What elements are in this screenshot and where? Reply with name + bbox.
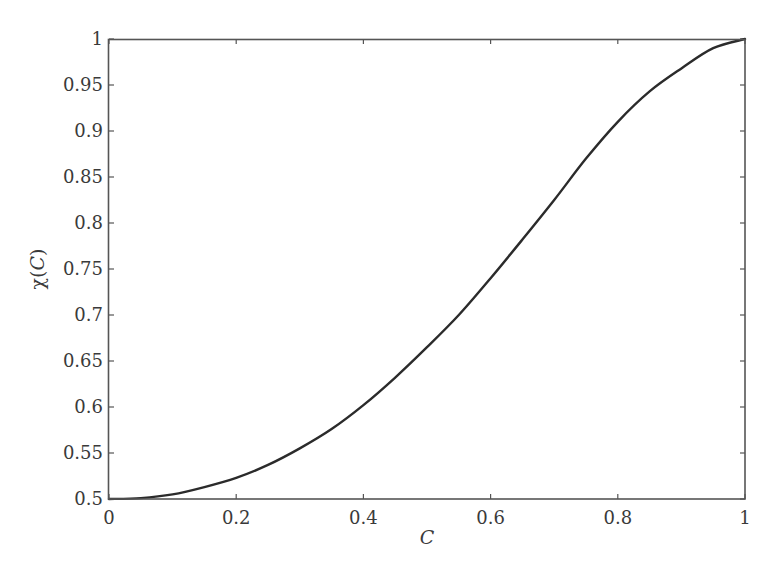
x-axis-ticks: 00.20.40.60.81 bbox=[103, 39, 750, 528]
chart: 0.50.550.60.650.70.750.80.850.90.951 00.… bbox=[0, 0, 779, 569]
y-axis-label-prefix: χ( bbox=[26, 271, 48, 290]
y-tick-label: 0.55 bbox=[63, 442, 103, 463]
y-tick-label: 0.85 bbox=[63, 166, 103, 187]
plot-frame bbox=[109, 40, 746, 500]
y-tick-label: 0.75 bbox=[63, 258, 103, 279]
x-tick-label: 0.4 bbox=[349, 507, 378, 528]
y-tick-label: 0.9 bbox=[74, 120, 103, 141]
y-tick-label: 0.95 bbox=[63, 74, 103, 95]
y-axis-ticks: 0.50.550.60.650.70.750.80.850.90.951 bbox=[63, 28, 745, 509]
y-tick-label: 0.6 bbox=[74, 396, 103, 417]
y-axis-label: χ(C) bbox=[26, 249, 48, 290]
y-tick-label: 0.5 bbox=[74, 488, 103, 509]
y-axis-label-suffix: ) bbox=[26, 249, 48, 256]
y-tick-label: 1 bbox=[92, 28, 103, 49]
x-tick-label: 0 bbox=[103, 507, 114, 528]
y-tick-label: 0.8 bbox=[74, 212, 103, 233]
y-tick-label: 0.7 bbox=[74, 304, 103, 325]
x-tick-label: 1 bbox=[739, 507, 750, 528]
x-tick-label: 0.8 bbox=[603, 507, 632, 528]
x-tick-label: 0.2 bbox=[222, 507, 251, 528]
y-tick-label: 0.65 bbox=[63, 350, 103, 371]
y-axis-label-var: C bbox=[26, 256, 48, 271]
x-axis-label: C bbox=[420, 526, 435, 548]
x-tick-label: 0.6 bbox=[476, 507, 505, 528]
chi-curve bbox=[109, 39, 745, 499]
